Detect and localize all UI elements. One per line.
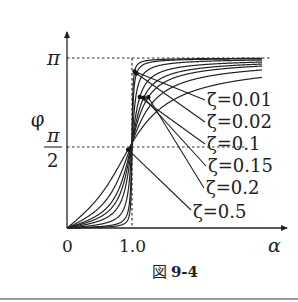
y-tick-pi: π bbox=[46, 46, 61, 70]
zeta-label-0.02: ζ=0.02 bbox=[207, 111, 272, 132]
caption-number: 9-4 bbox=[171, 263, 198, 281]
zeta-label-0.2: ζ=0.2 bbox=[206, 177, 259, 198]
y-tick-half-pi-numerator: π bbox=[46, 124, 60, 146]
bottom-rule bbox=[0, 298, 298, 300]
marker-dot bbox=[126, 147, 130, 151]
zeta-labels: ζ=0.01 ζ=0.02 ζ=0.1 ζ=0.15 ζ=0.2 ζ=0.5 bbox=[193, 89, 273, 222]
leader-line bbox=[144, 98, 206, 166]
zeta-label-0.01: ζ=0.01 bbox=[207, 89, 272, 110]
phase-response-chart: φ α π π 2 0 1.0 ζ=0.01 ζ=0.02 ζ=0.1 ζ=0.… bbox=[0, 0, 298, 302]
zeta-label-0.5: ζ=0.5 bbox=[193, 201, 246, 222]
y-axis-label: φ bbox=[27, 106, 46, 132]
zeta-label-0.1: ζ=0.1 bbox=[207, 133, 260, 154]
zeta-label-0.15: ζ=0.15 bbox=[208, 155, 273, 176]
figure-caption: 図9-4 bbox=[0, 260, 298, 281]
marker-dot bbox=[138, 95, 142, 99]
x-axis-label: α bbox=[268, 234, 281, 256]
x-tick-0: 0 bbox=[62, 236, 73, 256]
marker-dot bbox=[146, 95, 150, 99]
y-tick-half-pi-denominator: 2 bbox=[47, 150, 58, 171]
leader-line bbox=[148, 97, 204, 188]
annotation-leaders bbox=[128, 72, 206, 210]
caption-prefix: 図 bbox=[152, 263, 167, 281]
leader-line bbox=[128, 150, 191, 210]
marker-dot bbox=[134, 71, 138, 75]
marker-dot bbox=[142, 96, 146, 100]
x-tick-1: 1.0 bbox=[119, 236, 146, 256]
